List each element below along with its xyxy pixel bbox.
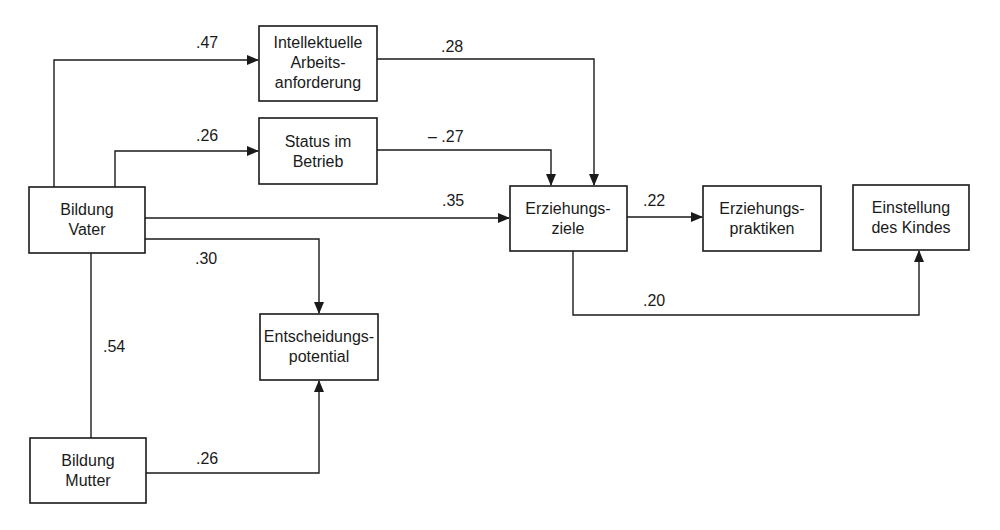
path-diagram: .47 .26 .28 – .27 .35 .22 .20 .30 .54 .2… — [0, 0, 1000, 530]
edge-label: .30 — [195, 250, 217, 267]
node-label-line1: Intellektuelle — [274, 34, 363, 51]
edge-status-to-ziele: – .27 — [377, 128, 551, 185]
node-label-line1: Bildung — [61, 452, 114, 469]
node-label-line1: Erziehungs- — [525, 200, 610, 217]
edge-line — [377, 150, 551, 185]
edge-line — [145, 239, 319, 313]
edge-label: – .27 — [428, 128, 464, 145]
node-label-line2: praktiken — [730, 220, 795, 237]
node-label-line3: anforderung — [275, 74, 361, 91]
node-label-line2: Arbeits- — [290, 54, 345, 71]
edge-vater-to-intellektuelle: .47 — [54, 34, 258, 187]
node-bildung-vater: Bildung Vater — [29, 187, 145, 253]
edge-label: .35 — [442, 192, 464, 209]
edge-label: .26 — [196, 127, 218, 144]
node-einstellung-des-kindes: Einstellung des Kindes — [853, 185, 969, 250]
edge-label: .22 — [643, 192, 665, 209]
node-label-line2: Mutter — [65, 472, 111, 489]
node-label-line1: Einstellung — [872, 199, 950, 216]
node-label-line1: Status im — [285, 133, 352, 150]
edge-line — [573, 251, 919, 315]
node-intellektuelle-arbeitsanforderung: Intellektuelle Arbeits- anforderung — [259, 26, 377, 101]
node-entscheidungspotential: Entscheidungs- potential — [260, 314, 378, 380]
edge-label: .47 — [196, 34, 218, 51]
node-label-line1: Bildung — [60, 201, 113, 218]
edge-vater-to-entscheidung: .30 — [145, 239, 319, 313]
node-label-line1: Erziehungs- — [719, 200, 804, 217]
edge-vater-to-status: .26 — [115, 127, 258, 187]
node-label-line1: Entscheidungs- — [264, 328, 374, 345]
edge-line — [54, 60, 258, 187]
node-label-line2: Vater — [68, 221, 106, 238]
edge-vater-to-ziele: .35 — [145, 192, 509, 218]
node-label-line2: ziele — [552, 220, 585, 237]
edge-label: .20 — [643, 292, 665, 309]
node-erziehungsziele: Erziehungs- ziele — [510, 186, 627, 251]
edge-ziele-to-einstellung: .20 — [573, 251, 919, 315]
node-label-line2: des Kindes — [871, 219, 950, 236]
edge-label: .28 — [441, 38, 463, 55]
node-bildung-mutter: Bildung Mutter — [30, 438, 146, 503]
node-label-line2: potential — [289, 348, 350, 365]
node-status-im-betrieb: Status im Betrieb — [259, 118, 377, 184]
node-erziehungspraktiken: Erziehungs- praktiken — [703, 186, 821, 251]
edge-line — [377, 59, 594, 185]
edge-line — [115, 151, 258, 187]
edge-ziele-to-praktiken: .22 — [627, 192, 702, 217]
edge-label: .54 — [103, 338, 125, 355]
edge-mutter-to-entscheidung: .26 — [146, 381, 319, 473]
edge-line — [146, 381, 319, 473]
node-label-line2: Betrieb — [293, 153, 344, 170]
edge-label: .26 — [196, 450, 218, 467]
edge-vater-mutter: .54 — [91, 253, 125, 438]
edge-intellektuelle-to-ziele: .28 — [377, 38, 594, 185]
